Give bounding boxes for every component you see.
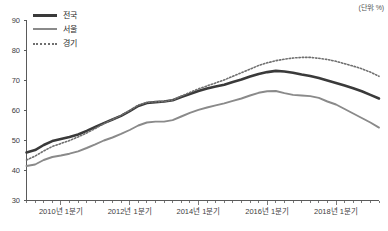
x-axis-tick-label: 2010년 1분기 <box>39 207 83 216</box>
legend-label: 경기 <box>63 39 77 49</box>
line-chart: (단위: %) 전국 서울 경기 30405060708090 2010년 1분… <box>0 0 388 231</box>
y-axis-tick-label: 90 <box>4 17 20 25</box>
x-axis-tick-label: 2018년 1분기 <box>314 207 358 216</box>
series-line-서울 <box>27 91 380 166</box>
series-layer <box>27 57 380 166</box>
legend-item-nation[interactable]: 전국 <box>33 10 77 21</box>
y-axis-tick-label: 80 <box>4 47 20 55</box>
legend-label: 서울 <box>63 25 77 35</box>
y-axis-tick-label: 30 <box>4 197 20 205</box>
legend-label: 전국 <box>63 11 77 21</box>
legend-dotted-line-icon <box>33 39 57 49</box>
y-axis-tick-label: 70 <box>4 77 20 85</box>
x-axis-tick-label: 2016년 1분기 <box>245 207 289 216</box>
legend-line-icon <box>33 11 57 21</box>
chart-legend: 전국 서울 경기 <box>33 10 77 49</box>
y-axis-tick-label: 40 <box>4 167 20 175</box>
y-axis-tick-label: 50 <box>4 137 20 145</box>
legend-item-seoul[interactable]: 서울 <box>33 24 77 35</box>
y-axis-tick-label: 60 <box>4 107 20 115</box>
x-axis-tick-label: 2012년 1분기 <box>108 207 152 216</box>
legend-item-gyeonggi[interactable]: 경기 <box>33 38 77 49</box>
series-line-전국 <box>27 71 380 153</box>
x-axis-tick-label: 2014년 1분기 <box>176 207 220 216</box>
legend-line-icon <box>33 25 57 35</box>
